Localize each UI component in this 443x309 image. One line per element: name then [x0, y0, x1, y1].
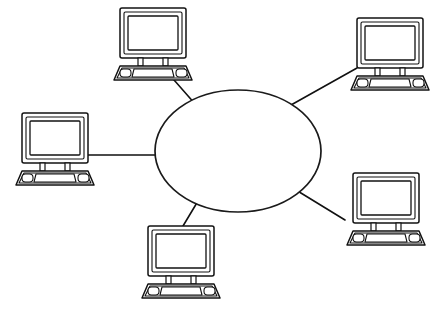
computer-icon [351, 18, 429, 90]
link-top-right[interactable] [291, 68, 357, 105]
link-bottom[interactable] [183, 201, 198, 226]
network-diagram [0, 0, 443, 309]
node-bottom[interactable] [142, 226, 220, 298]
computer-icon [114, 8, 192, 80]
computer-icon [142, 226, 220, 298]
link-right[interactable] [296, 190, 345, 220]
computer-icon [16, 113, 94, 185]
node-right[interactable] [347, 173, 425, 245]
computer-icon [347, 173, 425, 245]
node-top-right[interactable] [351, 18, 429, 90]
network-diagram-canvas [0, 0, 443, 309]
network-cloud[interactable] [155, 90, 321, 212]
node-left[interactable] [16, 113, 94, 185]
node-top-left[interactable] [114, 8, 192, 80]
